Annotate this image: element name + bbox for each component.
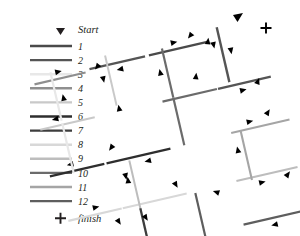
direction-arrowhead xyxy=(210,41,216,48)
direction-arrowhead xyxy=(213,190,220,196)
start-triangle-icon xyxy=(56,28,65,35)
arrow-top-right-down xyxy=(228,47,234,54)
direction-arrowhead xyxy=(259,180,266,186)
finish-marker xyxy=(261,23,272,34)
lattice-wall-line xyxy=(162,48,173,97)
lattice-wall-line xyxy=(140,208,150,236)
lattice-wall-line xyxy=(244,211,300,225)
wall-v-c4-top-2 xyxy=(210,27,229,82)
finish-plus-icon xyxy=(261,23,272,34)
wall-v-c2-bot-7 xyxy=(140,208,150,236)
legend-entry-label-5: 5 xyxy=(78,97,83,108)
lattice-wall-line xyxy=(217,27,230,82)
direction-arrowhead xyxy=(239,88,246,94)
finish-plus-icon xyxy=(55,213,66,224)
direction-arrowhead xyxy=(122,173,128,180)
figure-root: Start123456789101112finish xyxy=(0,0,300,236)
arrow-outer-left-top xyxy=(95,63,101,70)
direction-arrowhead xyxy=(92,205,99,211)
wall-r2-left-5 xyxy=(40,116,94,130)
arrow-bottom-inner xyxy=(172,181,178,188)
direction-arrowhead xyxy=(117,66,124,72)
arrow-mid-up xyxy=(193,73,199,80)
wall-v-c2-low-9 xyxy=(122,161,140,209)
direction-arrowhead xyxy=(284,171,290,178)
wall-bot-right-12 xyxy=(244,211,300,227)
wall-top-right-1 xyxy=(149,40,208,55)
wall-r3-mid-6 xyxy=(107,149,171,164)
wall-v-c3-top-10 xyxy=(158,48,173,97)
legend-entry-label-9: 9 xyxy=(78,153,83,164)
lattice-wall-line xyxy=(129,161,140,209)
arrow-bottom-mid-left xyxy=(213,190,220,196)
legend-entry-label-4: 4 xyxy=(78,83,83,94)
direction-arrowhead xyxy=(188,32,194,39)
direction-arrowhead xyxy=(264,109,270,116)
legend-entry-label-12: 12 xyxy=(78,196,88,207)
arrow-inner-left xyxy=(117,105,123,112)
legend-entry-label-7: 7 xyxy=(78,125,84,136)
wall-v-c4-mid-11 xyxy=(236,131,252,180)
direction-arrowhead xyxy=(236,146,242,153)
lattice-wall-line xyxy=(40,117,94,130)
start-marker xyxy=(233,13,243,22)
wall-v-c3-bot-12 xyxy=(195,193,206,236)
arrow-top-mid-up xyxy=(205,38,211,45)
lattice-wall-line xyxy=(149,42,208,56)
arrow-right-upper xyxy=(264,109,270,116)
direction-arrowhead xyxy=(117,105,123,112)
lattice-wall-line xyxy=(107,149,171,164)
direction-arrowhead xyxy=(193,73,199,80)
lattice-wall-line xyxy=(173,98,184,146)
wall-v-c3-mid-10 xyxy=(173,98,184,146)
direction-arrowhead xyxy=(271,221,278,227)
lattice-wall-line xyxy=(123,194,187,209)
direction-arrowhead xyxy=(170,40,177,46)
wall-r2-right-2 xyxy=(218,77,271,94)
direction-arrowhead xyxy=(115,218,121,225)
arrow-outer-left-mid xyxy=(109,144,115,151)
direction-arrowhead xyxy=(228,47,234,54)
legend-entry-label-8: 8 xyxy=(78,139,83,150)
legend-entry-label-11: 11 xyxy=(78,182,87,193)
lattice-wall-line xyxy=(195,193,206,236)
direction-arrowhead xyxy=(109,144,115,151)
direction-arrowhead xyxy=(205,38,211,45)
legend-start-label: Start xyxy=(78,24,100,35)
start-triangle-icon xyxy=(233,13,243,22)
wall-r4-mid-8 xyxy=(123,194,187,209)
legend-entry-label-1: 1 xyxy=(78,41,83,52)
direction-arrowhead xyxy=(158,69,164,76)
arrow-top-mid-left xyxy=(188,32,194,39)
direction-arrowhead xyxy=(61,94,67,101)
arrow-bottom-right-up xyxy=(284,171,290,178)
direction-arrowhead xyxy=(172,181,178,188)
arrow-bottom-left xyxy=(115,218,121,225)
wall-r3-right-11 xyxy=(231,119,289,133)
lattice-wall-line xyxy=(241,131,252,180)
maze-lattice-diagram xyxy=(35,13,300,236)
legend-entry-label-2: 2 xyxy=(78,55,83,66)
direction-arrowhead xyxy=(246,119,253,125)
lattice-wall-line xyxy=(218,77,271,89)
direction-arrowhead xyxy=(145,157,152,163)
direction-arrowhead xyxy=(95,63,101,70)
direction-arrowhead xyxy=(100,76,106,83)
